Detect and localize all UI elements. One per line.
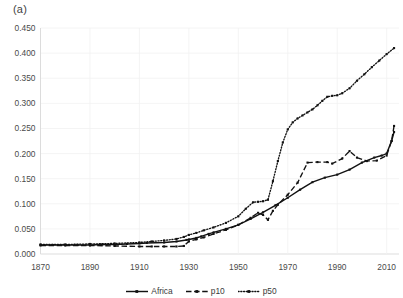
- x-axis-tick-label: 1950: [229, 262, 248, 272]
- y-axis-tick-label: 0.050: [15, 224, 36, 234]
- data-point-marker: [292, 121, 294, 123]
- legend-label: Africa: [151, 287, 172, 295]
- data-point-marker: [163, 239, 165, 241]
- data-point-marker: [252, 201, 254, 203]
- data-point-marker: [195, 232, 197, 234]
- data-point-marker: [203, 236, 205, 238]
- data-point-marker: [376, 160, 378, 162]
- data-point-marker: [316, 161, 318, 163]
- data-point-marker: [262, 214, 264, 216]
- x-axis-tick-label: 1990: [328, 262, 347, 272]
- data-point-marker: [163, 241, 165, 243]
- data-point-marker: [257, 212, 259, 214]
- data-point-marker: [208, 233, 210, 235]
- data-point-marker: [114, 245, 116, 247]
- data-point-marker: [371, 66, 373, 68]
- data-point-marker: [138, 241, 140, 243]
- data-point-marker: [250, 217, 252, 219]
- data-point-marker: [311, 181, 313, 183]
- data-point-marker: [188, 240, 190, 242]
- legend-item-p10[interactable]: p10: [186, 287, 225, 296]
- data-point-marker: [287, 194, 289, 196]
- data-point-marker: [257, 201, 259, 203]
- data-point-marker: [326, 96, 328, 98]
- series-line-africa: [41, 132, 395, 245]
- legend-swatch-dashed-icon: [186, 287, 208, 296]
- data-point-marker: [185, 239, 187, 241]
- data-point-marker: [356, 157, 358, 159]
- data-point-marker: [331, 95, 333, 97]
- legend-swatch-solid-icon: [126, 287, 148, 296]
- x-axis-tick-label: 1870: [31, 262, 50, 272]
- data-point-marker: [324, 177, 326, 179]
- data-point-marker: [200, 235, 202, 237]
- legend-item-p50[interactable]: p50: [238, 287, 277, 296]
- data-point-marker: [282, 141, 284, 143]
- data-point-marker: [331, 163, 333, 165]
- data-point-marker: [237, 215, 239, 217]
- data-point-marker: [386, 155, 388, 157]
- gridlines: [41, 28, 400, 254]
- data-point-marker: [366, 160, 368, 162]
- data-point-marker: [175, 245, 177, 247]
- data-point-marker: [302, 114, 304, 116]
- series-line-p10: [41, 126, 395, 247]
- data-point-marker: [316, 104, 318, 106]
- data-point-marker: [341, 92, 343, 94]
- chart-legend: Africap10p50: [0, 287, 403, 296]
- data-point-marker: [203, 229, 205, 231]
- data-point-marker: [287, 197, 289, 199]
- data-point-marker: [381, 155, 383, 157]
- data-point-marker: [267, 199, 269, 201]
- data-point-marker: [336, 174, 338, 176]
- data-point-marker: [336, 94, 338, 96]
- x-axis-tick-label: 1970: [278, 262, 297, 272]
- y-axis-tick-label: 0.000: [15, 249, 36, 259]
- data-point-marker: [349, 150, 351, 152]
- x-axis-tick-label: 1930: [180, 262, 199, 272]
- y-axis-tick-label: 0.100: [15, 199, 36, 209]
- data-point-marker: [386, 53, 388, 55]
- data-point-marker: [373, 157, 375, 159]
- data-point-marker: [225, 229, 227, 231]
- data-point-marker: [195, 238, 197, 240]
- data-point-marker: [378, 60, 380, 62]
- data-point-marker: [114, 242, 116, 244]
- y-axis-tick-label: 0.200: [15, 149, 36, 159]
- data-point-marker: [225, 222, 227, 224]
- data-point-marker: [326, 161, 328, 163]
- line-chart-plot: 0.0000.0500.1000.1500.2000.2500.3000.350…: [0, 0, 403, 298]
- data-point-marker: [297, 182, 299, 184]
- data-point-marker: [363, 73, 365, 75]
- data-point-marker: [64, 243, 66, 245]
- data-point-marker: [299, 189, 301, 191]
- data-point-marker: [267, 219, 269, 221]
- legend-item-africa[interactable]: Africa: [126, 287, 172, 296]
- data-point-marker: [341, 158, 343, 160]
- data-point-marker: [321, 100, 323, 102]
- data-point-marker: [287, 128, 289, 130]
- data-point-marker: [297, 117, 299, 119]
- data-point-marker: [306, 111, 308, 113]
- data-point-marker: [311, 108, 313, 110]
- y-axis-tick-label: 0.350: [15, 73, 36, 83]
- data-point-marker: [163, 245, 165, 247]
- y-axis-tick-label: 0.450: [15, 23, 36, 33]
- data-point-marker: [151, 240, 153, 242]
- data-point-marker: [272, 210, 274, 212]
- data-point-marker: [393, 125, 395, 127]
- data-point-marker: [175, 240, 177, 242]
- data-point-marker: [183, 245, 185, 247]
- data-point-marker: [245, 208, 247, 210]
- data-point-marker: [306, 162, 308, 164]
- data-point-marker: [188, 238, 190, 240]
- data-point-marker: [213, 233, 215, 235]
- data-point-marker: [138, 245, 140, 247]
- y-axis-tick-label: 0.300: [15, 98, 36, 108]
- y-axis-tick-label: 0.250: [15, 123, 36, 133]
- data-point-marker: [361, 162, 363, 164]
- data-point-marker: [349, 87, 351, 89]
- legend-swatch-dotted-icon: [238, 287, 260, 296]
- data-point-marker: [237, 224, 239, 226]
- data-point-marker: [151, 245, 153, 247]
